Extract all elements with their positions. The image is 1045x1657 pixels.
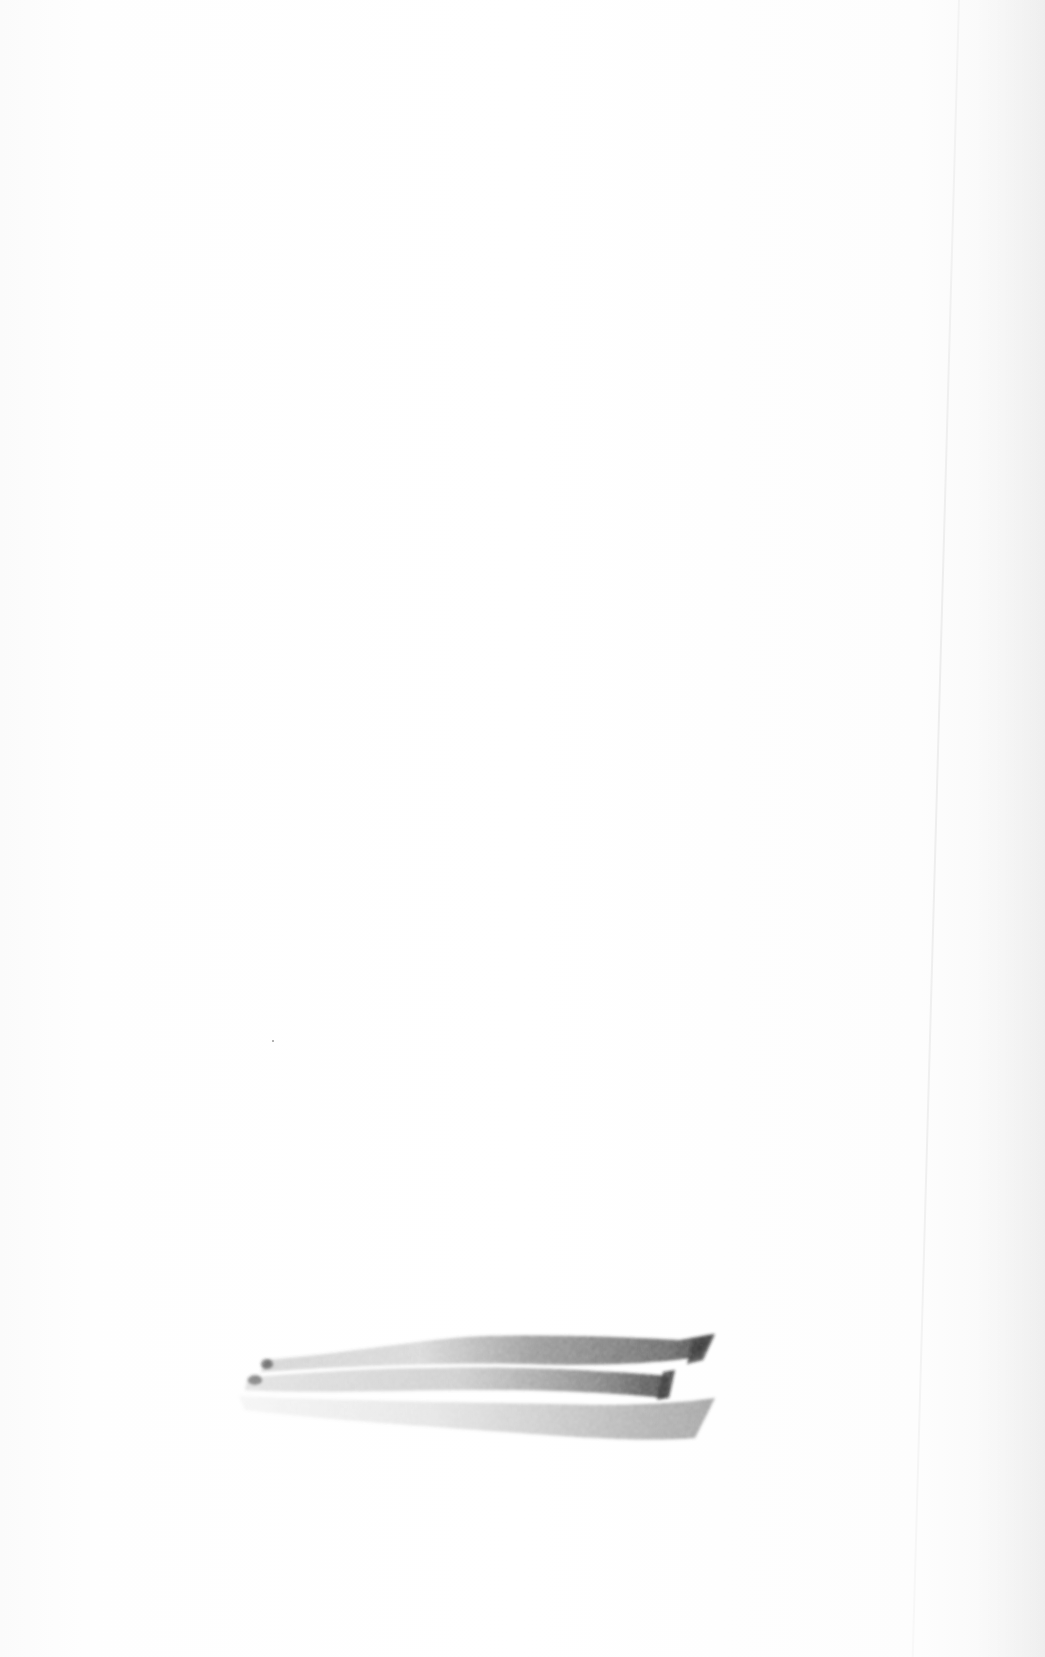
paper-sheet [0,0,1045,1657]
graphite-smudge [225,1320,725,1455]
paper-edge-shadow [975,0,1045,1657]
paper-speck [272,1040,274,1042]
paper-crease [912,0,960,1657]
